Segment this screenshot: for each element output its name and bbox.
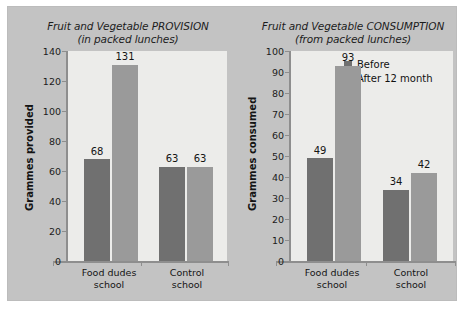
bar-value-consumption-control-before: 34 — [376, 176, 416, 187]
y-tick-label-120: 120 — [25, 76, 61, 87]
x-group-label-fooddudes-line2: school — [69, 279, 149, 291]
y-tick-mark-70 — [285, 114, 289, 115]
bar-value-provision-fooddudes-after: 131 — [105, 51, 145, 62]
y-axis-line-consumption — [289, 51, 291, 262]
x-tick-mark-end — [455, 262, 456, 266]
y-tick-mark-40 — [285, 177, 289, 178]
chart-title-consumption: Fruit and Vegetable CONSUMPTION (from pa… — [246, 20, 460, 45]
y-tick-label-100: 100 — [248, 46, 284, 57]
y-axis-label-provision: Grammes provided — [24, 104, 35, 211]
x-group-label-fooddudes: Food dudes school — [292, 267, 372, 290]
y-tick-mark-30 — [285, 198, 289, 199]
y-tick-mark-20 — [62, 231, 66, 232]
x-tick-mark-start — [276, 262, 277, 266]
x-group-label-control: Control school — [147, 267, 227, 290]
x-tick-mark-mid — [141, 262, 142, 266]
chart-title-line1: Fruit and Vegetable CONSUMPTION — [262, 20, 444, 32]
y-tick-mark-0 — [62, 261, 66, 262]
y-axis-label-consumption: Grammes consumed — [247, 97, 258, 211]
x-group-label-fooddudes-line1: Food dudes — [82, 267, 137, 278]
x-tick-mark-end — [228, 262, 229, 266]
x-group-label-control: Control school — [371, 267, 451, 290]
x-group-label-control-line1: Control — [170, 267, 204, 278]
bar-consumption-control-after — [411, 173, 437, 261]
bar-provision-fooddudes-before — [84, 159, 110, 261]
chart-provision: Fruit and Vegetable PROVISION (in packed… — [7, 6, 239, 301]
x-group-label-control-line2: school — [147, 279, 227, 291]
x-group-label-fooddudes-line1: Food dudes — [305, 267, 360, 278]
y-tick-mark-50 — [285, 156, 289, 157]
figure-root: Fruit and Vegetable PROVISION (in packed… — [0, 0, 464, 314]
y-tick-mark-40 — [62, 201, 66, 202]
chart-title-provision: Fruit and Vegetable PROVISION (in packed… — [21, 20, 235, 45]
chart-title-line1: Fruit and Vegetable PROVISION — [47, 20, 209, 32]
y-tick-label-20: 20 — [25, 226, 61, 237]
x-tick-mark-mid — [366, 262, 367, 266]
y-tick-mark-10 — [285, 240, 289, 241]
bar-consumption-control-before — [383, 190, 409, 261]
x-group-label-control-line2: school — [371, 279, 451, 291]
y-tick-mark-100 — [285, 51, 289, 52]
bar-consumption-fooddudes-after — [335, 66, 361, 261]
y-tick-label-90: 90 — [248, 67, 284, 78]
bar-value-consumption-fooddudes-after: 93 — [328, 52, 368, 63]
y-tick-mark-120 — [62, 81, 66, 82]
y-tick-mark-20 — [285, 219, 289, 220]
legend-label-after: After 12 month — [357, 73, 433, 84]
bar-provision-control-after — [187, 167, 213, 262]
bar-consumption-fooddudes-before — [307, 158, 333, 261]
y-tick-mark-60 — [62, 171, 66, 172]
y-tick-label-10: 10 — [248, 235, 284, 246]
x-group-label-fooddudes-line2: school — [292, 279, 372, 291]
y-tick-mark-140 — [62, 51, 66, 52]
y-tick-mark-60 — [285, 135, 289, 136]
bar-value-provision-control-after: 63 — [180, 153, 220, 164]
y-tick-mark-0 — [285, 261, 289, 262]
chart-title-line2: (in packed lunches) — [21, 33, 235, 46]
x-tick-mark-start — [53, 262, 54, 266]
bar-value-consumption-fooddudes-before: 49 — [300, 145, 340, 156]
y-tick-label-0: 0 — [25, 256, 61, 267]
figure-panel: Fruit and Vegetable PROVISION (in packed… — [7, 6, 457, 301]
y-tick-mark-80 — [285, 93, 289, 94]
chart-consumption: Fruit and Vegetable CONSUMPTION (from pa… — [232, 6, 464, 301]
y-tick-mark-90 — [285, 72, 289, 73]
y-tick-mark-100 — [62, 111, 66, 112]
y-tick-label-0: 0 — [248, 256, 284, 267]
x-group-label-fooddudes: Food dudes school — [69, 267, 149, 290]
y-axis-line-provision — [66, 51, 68, 262]
bar-provision-control-before — [159, 167, 185, 262]
bar-provision-fooddudes-after — [112, 65, 138, 262]
bar-value-consumption-control-after: 42 — [404, 159, 444, 170]
bar-value-provision-fooddudes-before: 68 — [77, 146, 117, 157]
y-tick-label-20: 20 — [248, 214, 284, 225]
x-group-label-control-line1: Control — [394, 267, 428, 278]
y-tick-label-140: 140 — [25, 46, 61, 57]
chart-title-line2: (from packed lunches) — [246, 33, 460, 46]
y-tick-mark-80 — [62, 141, 66, 142]
